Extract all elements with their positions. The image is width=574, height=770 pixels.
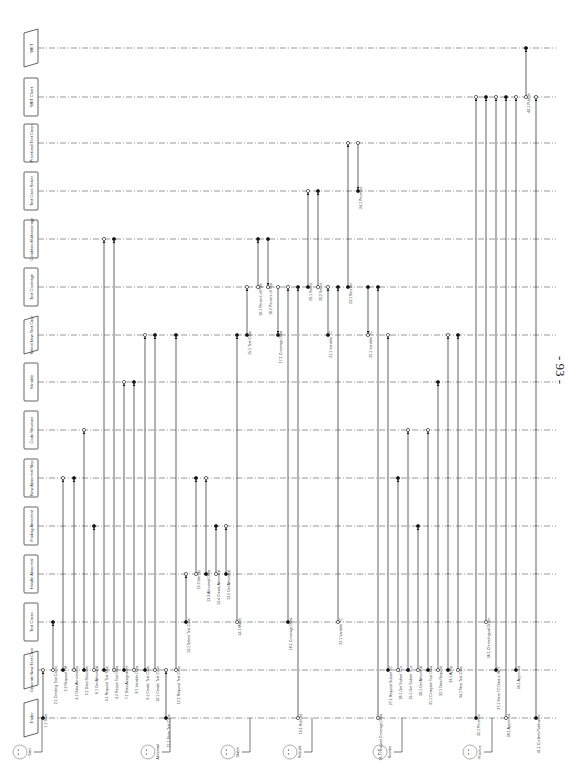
arrowhead-icon (93, 528, 96, 530)
message-label: 19.1 Rebuild (299, 714, 303, 734)
message-label: 8.1 Variable Data (135, 666, 139, 694)
actors: StartAbnormalMatchRebuildReorderPrioriti… (13, 718, 492, 759)
arrowhead-icon (327, 289, 330, 291)
message: 22.1 Variable TC (336, 285, 343, 644)
message: 20.2 Select (316, 189, 323, 301)
arrowhead-icon (297, 289, 300, 291)
message: 20.1 Select (306, 189, 313, 301)
lifeline-label: Code Structure (29, 416, 34, 444)
arrowhead-icon (387, 337, 390, 339)
arrowhead-icon (123, 384, 126, 386)
message-label: 1.1 Start (44, 714, 48, 728)
message: 24.1 Priorities (356, 141, 363, 209)
lifeline-label: Prioritized Test Cases (29, 124, 34, 163)
message: 23.1 Reorder (346, 141, 353, 304)
message-label: 31.1 Compare Test Data (429, 666, 433, 705)
message: 13.1 Select Test Case (184, 572, 191, 653)
message-label: 39.1 Approved (517, 666, 521, 689)
message-label: 2.1 Creating Test Cases (54, 666, 58, 704)
message: 16.2 Percent of Test (266, 237, 273, 315)
arrowhead-icon (113, 241, 116, 243)
arrowhead-icon (427, 432, 430, 434)
message: 18.1 Coverage Data (286, 285, 293, 650)
arrowhead-icon (205, 480, 208, 482)
arrowhead-icon (417, 528, 420, 530)
lifeline-label: Test Cases (29, 612, 34, 632)
sequence-diagram: TraderGenerate New Test CaseTest CasesHa… (0, 0, 574, 770)
message-label: 14.1 Match (238, 618, 242, 636)
message: 9.1 Create Test Case (143, 333, 150, 699)
message: 19.1 Rebuild (296, 285, 303, 734)
arrowhead-icon (225, 528, 228, 530)
message-label: 7.1 Data Assignment (125, 666, 129, 699)
lifeline-label: Handle Abnormal (29, 559, 34, 590)
message: 10.1 Create Test Case (153, 333, 160, 701)
arrowhead-icon (215, 528, 218, 530)
arrowhead-icon (475, 99, 478, 101)
arrowhead-icon (505, 99, 508, 101)
message-label: 13.5 Get Abnormal (227, 570, 231, 600)
message-label: 30.1 Get Abnormal (419, 666, 423, 696)
page-number: - 93 - (548, 340, 568, 400)
message-label: 29.1 Get Subset TCs (409, 666, 413, 700)
message: 12.1 Request Test Case (174, 333, 181, 704)
actor-label: Rebuild (298, 746, 302, 758)
message-label: 36.1 Chronological Order (487, 617, 491, 658)
message: 21.1 Variable TC (326, 285, 333, 357)
arrowhead-icon (397, 480, 400, 482)
arrowhead-icon (287, 289, 290, 291)
actor-label: Prioritize (478, 745, 482, 759)
arrowhead-icon (83, 432, 86, 434)
messages: 1.1 Start2.1 Creating Test Cases2.2 Requ… (41, 46, 541, 760)
message-label: 11.1 Store Test Case (167, 714, 171, 747)
message-label: 3.2 Return Test Data (115, 666, 119, 699)
arrowhead-icon (347, 145, 350, 147)
lifeline-label: Trader (29, 712, 34, 724)
arrowhead-icon (525, 50, 528, 52)
message: 7.1 Data Assignment (122, 380, 129, 699)
actor-label: Start (28, 748, 32, 755)
message-label: 22.1 Variable TC (339, 618, 343, 645)
lifeline-label: Select New Test Case (29, 315, 34, 355)
message-label: 13.4 Create Abnormal (217, 570, 221, 605)
message: 39.1 Approved (514, 95, 521, 689)
message-label: 16.1 Percent of Path (259, 283, 263, 316)
arrowhead-icon (437, 384, 440, 386)
arrowhead-icon (257, 241, 260, 243)
message-label: 21.1 Variable TC (329, 331, 333, 358)
message-label: 38.1 Approved (507, 714, 511, 737)
message-label: 5.1 Data Structure (85, 666, 89, 695)
arrowhead-icon (535, 99, 538, 101)
message: 13.3 Abnormal Data (204, 476, 211, 601)
actor-rebuild: Rebuild (283, 718, 312, 759)
arrowhead-icon (165, 672, 168, 674)
arrowhead-icon (42, 672, 45, 674)
message-label: 23.1 Reorder (349, 282, 353, 304)
arrowhead-icon (154, 337, 157, 339)
actor-smiley-icon (141, 745, 155, 759)
arrowhead-icon (515, 99, 518, 101)
message: 29.1 Get Subset TCs (406, 428, 413, 699)
actor-smiley-icon (283, 745, 297, 759)
message-label: 20.1 Select (309, 283, 313, 301)
arrowhead-icon (73, 480, 76, 482)
lifeline-label: Variable (29, 374, 34, 389)
message-label: 20.2 Select (319, 283, 323, 301)
message-label: 3.1 Request Test Step (105, 666, 109, 701)
message: 33.1 Apply (446, 333, 453, 682)
message-label: 25.1 Variable TC (369, 331, 373, 358)
arrowhead-icon (407, 432, 410, 434)
message-label: 32.1 Data Request (439, 666, 443, 696)
actor-smiley-icon (221, 745, 235, 759)
arrowhead-icon (447, 337, 450, 339)
arrowhead-icon (144, 337, 147, 339)
message: 4.1 Data Abnormality (72, 476, 79, 699)
message-label: 41.1 Confirm Publication (537, 714, 541, 753)
message: 1.1 Start (41, 668, 48, 727)
message-label: 13.1 Select Test Case (187, 618, 191, 653)
arrowhead-icon (457, 337, 460, 339)
message: 40.1 Publish (524, 46, 531, 112)
message-label: 40.1 Publish (527, 93, 531, 113)
message: 38.1 Approved (504, 95, 511, 737)
message: 5.1 Data Structure (82, 428, 89, 695)
